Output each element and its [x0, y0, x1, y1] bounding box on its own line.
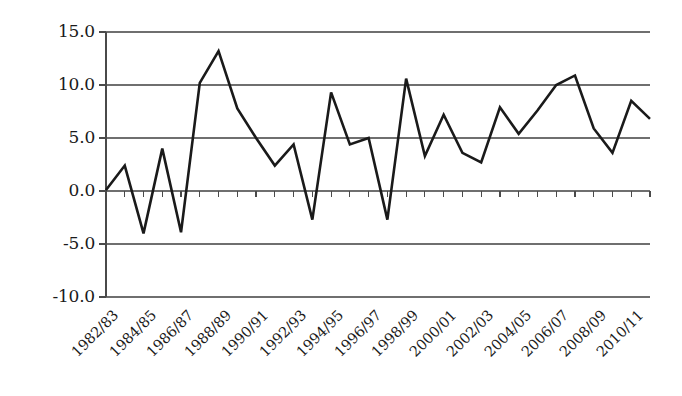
- y-axis-tick-label: 15.0: [58, 21, 95, 41]
- y-axis-line: [99, 32, 106, 297]
- chart-container: 15.010.05.00.0-5.0-10.0 1982/831984/8519…: [0, 0, 682, 396]
- gridlines: [106, 32, 650, 297]
- x-axis-ticks: [106, 191, 650, 197]
- y-axis-tick-label: 0.0: [69, 180, 95, 200]
- y-axis-tick-label: 10.0: [58, 74, 95, 94]
- data-series-line: [106, 51, 650, 233]
- y-axis-tick-label: -10.0: [52, 286, 95, 306]
- series-line: [106, 51, 650, 233]
- y-axis-tick-label: -5.0: [63, 233, 95, 253]
- y-axis-tick-label: 5.0: [69, 127, 95, 147]
